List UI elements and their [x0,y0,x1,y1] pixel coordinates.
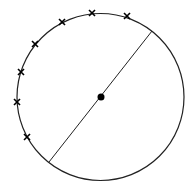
circle-diagram [0,0,192,191]
background [0,0,192,191]
center-point [98,94,105,101]
